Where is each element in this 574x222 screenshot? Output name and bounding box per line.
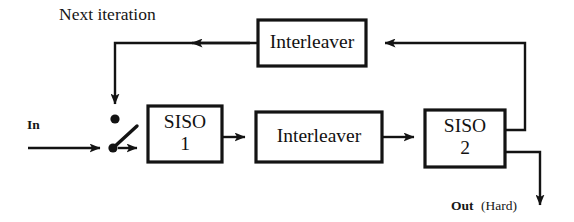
feedback-path-interleaver-top-to-switch	[115, 43, 258, 104]
block-siso-1-label-line2: 1	[180, 133, 190, 154]
turbo-decoder-diagram: SISO 1 Interleaver SISO 2 Interleaver	[0, 0, 574, 222]
input-label: In	[27, 117, 40, 132]
output-label-bold: Out	[451, 198, 474, 213]
switch-upper-contact-dot	[110, 114, 119, 123]
block-siso-1: SISO 1	[148, 106, 222, 162]
block-interleaver-middle-label: Interleaver	[277, 125, 362, 146]
diagram-canvas: SISO 1 Interleaver SISO 2 Interleaver	[0, 0, 574, 222]
switch-lever[interactable]	[113, 126, 137, 148]
block-siso-2-label-line2: 2	[460, 137, 470, 158]
output-label-qualifier: (Hard)	[481, 198, 517, 213]
block-siso-2: SISO 2	[425, 110, 505, 167]
block-siso-2-label-line1: SISO	[444, 115, 486, 136]
block-siso-1-label-line1: SISO	[164, 111, 206, 132]
block-interleaver-middle: Interleaver	[256, 112, 382, 162]
block-interleaver-top: Interleaver	[258, 20, 366, 66]
block-interleaver-top-label: Interleaver	[270, 31, 355, 52]
next-iteration-label: Next iteration	[59, 4, 156, 24]
